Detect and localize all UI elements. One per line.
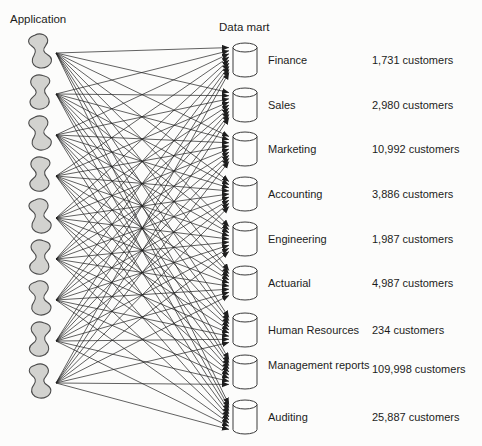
data-mart-cylinders: [233, 43, 257, 434]
data-mart-cylinder-icon: [233, 222, 257, 256]
application-blob-icon: [29, 363, 52, 399]
application-blob-icon: [29, 239, 50, 274]
arrow-connector: [56, 218, 229, 239]
data-mart-cylinder-icon: [233, 313, 257, 347]
customer-count-accounting: 3,886 customers: [372, 187, 453, 201]
data-mart-cylinder-icon: [233, 266, 257, 300]
data-mart-cylinder-icon: [233, 177, 257, 211]
customer-count-management-reports: 109,998 customers: [372, 362, 466, 376]
customer-count-marketing: 10,992 customers: [372, 142, 459, 156]
customer-count-auditing: 25,887 customers: [372, 410, 459, 424]
application-blob-icon: [30, 75, 50, 110]
customer-count-sales: 2,980 customers: [372, 98, 453, 112]
customer-count-engineering: 1,987 customers: [372, 232, 453, 246]
arrow-connector: [56, 259, 229, 333]
application-blob-icon: [28, 115, 53, 152]
data-mart-cylinder-icon: [233, 43, 257, 77]
data-mart-label-engineering: Engineering: [268, 232, 370, 246]
data-mart-cylinder-icon: [233, 400, 257, 434]
data-mart-label-sales: Sales: [268, 98, 370, 112]
connection-lines: [56, 48, 229, 430]
data-mart-cylinder-icon: [233, 88, 257, 122]
arrow-connector: [56, 117, 229, 383]
application-blob-icon: [30, 157, 51, 192]
data-mart-label-human-resources: Human Resources: [268, 323, 370, 337]
data-mart-label-marketing: Marketing: [268, 142, 370, 156]
data-mart-label-auditing: Auditing: [268, 410, 370, 424]
customer-count-actuarial: 4,987 customers: [372, 276, 453, 290]
arrow-connector: [56, 66, 229, 300]
application-column-title: Application: [10, 13, 66, 26]
application-blobs: [28, 32, 53, 399]
application-blob-icon: [29, 321, 51, 357]
arrow-connector: [56, 48, 229, 53]
arrow-connector: [56, 176, 229, 327]
arrow-connector: [56, 383, 229, 429]
arrow-connector: [56, 383, 229, 384]
data-mart-column-title: Data mart: [219, 21, 270, 34]
data-mart-cylinder-icon: [233, 132, 257, 166]
customer-count-finance: 1,731 customers: [372, 53, 453, 67]
application-blob-icon: [28, 280, 52, 316]
arrow-connector: [56, 57, 229, 176]
arrow-connector: [56, 300, 229, 423]
application-blob-icon: [28, 32, 53, 69]
data-mart-cylinder-icon: [233, 355, 257, 389]
data-mart-label-management-reports: Management reports: [268, 358, 370, 372]
arrow-connector: [56, 99, 229, 135]
customer-count-human-resources: 234 customers: [372, 323, 444, 337]
application-blob-icon: [28, 198, 52, 235]
data-mart-label-accounting: Accounting: [268, 187, 370, 201]
data-mart-label-actuarial: Actuarial: [268, 276, 370, 290]
data-mart-label-finance: Finance: [268, 53, 370, 67]
diagram-canvas: Application Data mart Finance Sales Mark…: [0, 0, 482, 446]
arrow-connector: [56, 342, 229, 383]
arrow-connector: [56, 251, 229, 383]
arrow-connector: [56, 53, 229, 93]
arrow-connector: [56, 206, 229, 383]
